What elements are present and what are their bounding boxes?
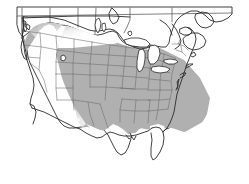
range-map-container: Distribution range map of the contiguous… — [0, 0, 249, 184]
lake-ontario — [164, 59, 178, 64]
range-map-graphic — [0, 0, 249, 184]
